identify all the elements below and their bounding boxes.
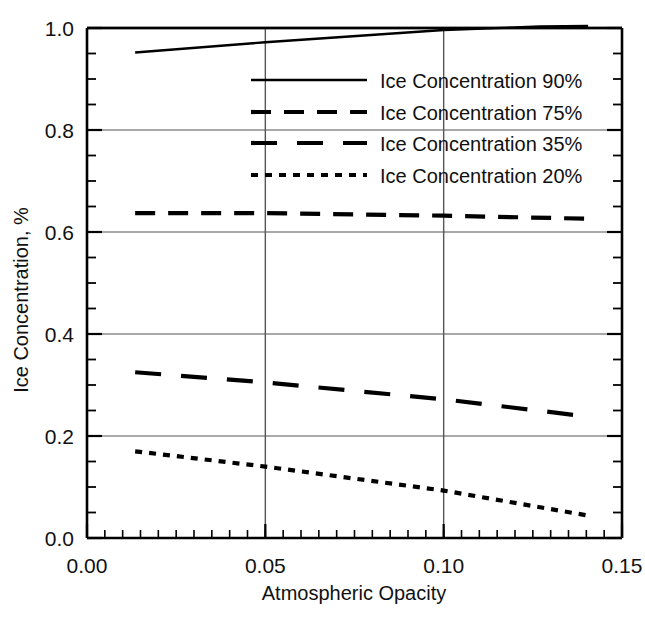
x-tick-label: 0.10 <box>423 554 464 577</box>
y-tick-label: 0.6 <box>45 221 74 244</box>
chart-background <box>0 0 645 620</box>
chart-canvas: 0.000.050.100.15 0.00.20.40.60.81.0 Ice … <box>0 0 645 620</box>
x-tick-label: 0.15 <box>602 554 643 577</box>
x-axis-title: Atmospheric Opacity <box>262 582 447 604</box>
y-tick-label: 0.0 <box>45 527 74 550</box>
y-tick-label: 0.8 <box>45 119 74 142</box>
y-tick-label: 1.0 <box>45 17 74 40</box>
legend-label: Ice Concentration 90% <box>380 70 583 92</box>
y-tick-label: 0.2 <box>45 425 74 448</box>
legend-label: Ice Concentration 20% <box>380 165 583 187</box>
legend-label: Ice Concentration 35% <box>380 133 583 155</box>
x-tick-label: 0.00 <box>67 554 108 577</box>
legend-label: Ice Concentration 75% <box>380 102 583 124</box>
y-tick-label: 0.4 <box>45 323 75 346</box>
x-tick-label: 0.05 <box>245 554 286 577</box>
y-axis-title: Ice Concentration, % <box>10 207 32 393</box>
chart-figure: 0.000.050.100.15 0.00.20.40.60.81.0 Ice … <box>0 0 645 620</box>
